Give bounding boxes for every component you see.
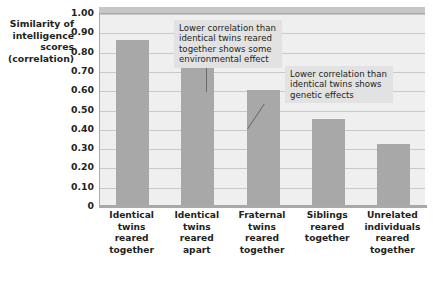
x-category-label: Fraternaltwinsrearedtogether [229,210,295,256]
annotation-genetic-effects: Lower correlation than identical twins s… [285,66,393,103]
x-category-label-line: reared [294,222,360,234]
y-tick-label: 0.60 [60,85,94,95]
x-category-label: Siblingsrearedtogether [294,210,360,245]
x-axis-line [99,205,427,208]
x-category-label-line: Identical [99,210,165,222]
annotation-1-line-2: identical twins reared [179,33,277,43]
bar [377,144,410,206]
y-tick-label: 0.90 [60,27,94,37]
annotation-1-line-1: Lower correlation than [179,23,277,33]
y-tick-label: 0.50 [60,105,94,115]
x-category-label-line: together [359,245,425,257]
annotation-environmental-effect: Lower correlation than identical twins r… [174,20,282,68]
x-category-label-line: twins [229,222,295,234]
bar [312,119,345,206]
x-category-label-line: reared [99,233,165,245]
x-category-label: Unrelatedindividualsrearedtogether [359,210,425,256]
x-category-label-line: individuals [359,222,425,234]
x-category-label-line: apart [164,245,230,257]
y-axis-tick-labels: 1.000.900.800.700.600.500.400.300.200.10… [60,0,94,281]
x-category-label-line: Fraternal [229,210,295,222]
annotation-2-line-3: genetic effects [290,90,388,100]
y-tick-label: 0 [60,201,94,211]
x-category-label: Identicaltwinsrearedtogether [99,210,165,256]
y-tick-label: 0.20 [60,162,94,172]
x-category-label: Identicaltwinsrearedapart [164,210,230,256]
x-category-label-line: reared [229,233,295,245]
gridline [100,14,425,15]
x-category-label-line: together [294,233,360,245]
y-tick-label: 0.40 [60,124,94,134]
bar [116,40,149,206]
annotation-1-line-3: together shows some [179,44,277,54]
x-category-label-line: Identical [164,210,230,222]
bar [247,90,280,206]
x-category-label-line: Siblings [294,210,360,222]
y-tick-label: 0.10 [60,182,94,192]
x-category-label-line: reared [359,233,425,245]
x-category-label-line: reared [164,233,230,245]
x-category-label-line: Unrelated [359,210,425,222]
y-tick-label: 1.00 [60,8,94,18]
bar [181,67,214,206]
annotation-1-line-4: environmental effect [179,54,277,64]
x-category-label-line: twins [99,222,165,234]
callout-leader-line-1 [206,66,207,92]
x-category-label-line: together [229,245,295,257]
x-category-label-line: together [99,245,165,257]
annotation-2-line-1: Lower correlation than [290,69,388,79]
y-tick-label: 0.30 [60,143,94,153]
x-axis-category-labels: IdenticaltwinsrearedtogetherIdenticaltwi… [99,210,425,278]
annotation-2-line-2: identical twins shows [290,79,388,89]
y-tick-label: 0.70 [60,66,94,76]
x-category-label-line: twins [164,222,230,234]
bar-chart-figure: Similarity of intelligence scores (corre… [0,0,433,281]
y-tick-label: 0.80 [60,47,94,57]
